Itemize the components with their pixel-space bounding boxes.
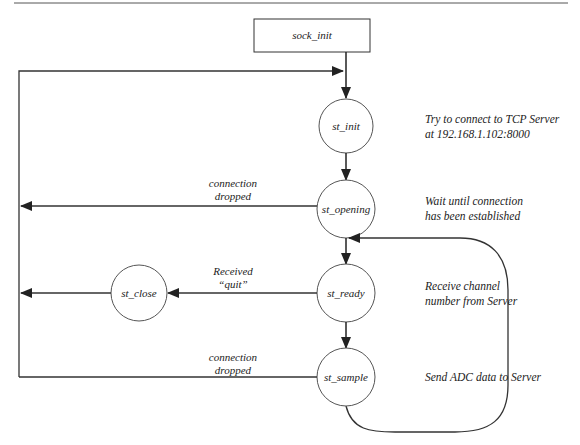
edge-label-opening-dropped-1: connection (209, 177, 258, 189)
state-label: st_init (332, 120, 360, 132)
edge-label-sample-dropped-1: connection (209, 351, 258, 363)
state-st-close: st_close (111, 265, 167, 321)
note-st-sample-line1: Send ADC data to Server (425, 371, 542, 383)
note-st-opening-line2: has been established (425, 210, 520, 222)
state-st-ready: st_ready (317, 264, 375, 322)
edge-label-ready-quit-2: “quit” (218, 278, 247, 290)
note-st-ready-line1: Receive channel (424, 280, 500, 292)
state-label: st_ready (327, 287, 365, 299)
state-label: st_sample (324, 371, 368, 383)
start-box-label: sock_init (292, 29, 333, 41)
state-label: st_close (121, 287, 157, 299)
edge-return-loop (19, 71, 343, 377)
edge-label-sample-dropped-2: dropped (215, 364, 252, 376)
edge-label-opening-dropped-2: dropped (215, 190, 252, 202)
start-box-sock-init: sock_init (254, 19, 370, 52)
state-st-opening: st_opening (317, 180, 375, 238)
note-st-init-line1: Try to connect to TCP Server (425, 113, 560, 126)
state-st-init: st_init (319, 99, 373, 153)
note-st-init-line2: at 192.168.1.102:8000 (425, 128, 530, 140)
note-st-ready-line2: number from Server (425, 295, 518, 308)
edge-label-ready-quit-1: Received (212, 265, 253, 277)
state-label: st_opening (322, 203, 371, 215)
state-st-sample: st_sample (317, 348, 375, 406)
edge-sample-loop (346, 238, 508, 432)
state-diagram: sock_init st_init Try to connect to TCP … (0, 0, 580, 445)
note-st-opening-line1: Wait until connection (425, 195, 523, 207)
